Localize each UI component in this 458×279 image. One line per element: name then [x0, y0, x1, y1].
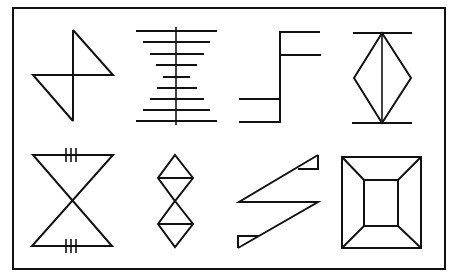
symbol-double-diamond: [158, 155, 193, 247]
symbol-z-hourglass: [33, 30, 113, 121]
symbol-ladder-hourglass: [136, 27, 217, 125]
symbol-diamond-between-bars: [352, 33, 412, 123]
symbol-step-flag: [239, 32, 321, 122]
symbol-frame-box: [342, 157, 421, 248]
symbol-hourglass-with-ticks: [32, 148, 113, 253]
symbol-plate: [0, 0, 458, 279]
symbol-zigzag-flags: [238, 155, 318, 248]
plate-border: [13, 8, 445, 269]
